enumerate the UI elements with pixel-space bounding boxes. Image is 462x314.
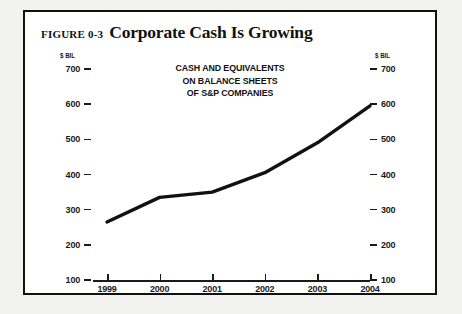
x-tick-label-2004: 2004 bbox=[350, 284, 390, 294]
x-tick-label-2001: 2001 bbox=[192, 284, 232, 294]
x-tick-mark-2001 bbox=[212, 274, 214, 281]
figure-frame: FIGURE 0-3 Corporate Cash Is Growing $ B… bbox=[23, 10, 437, 295]
x-tick-mark-2003 bbox=[317, 274, 319, 281]
x-tick-mark-2000 bbox=[160, 274, 162, 281]
x-tick-mark-2002 bbox=[265, 274, 267, 281]
data-series-line bbox=[25, 12, 435, 293]
x-tick-label-2003: 2003 bbox=[297, 284, 337, 294]
x-tick-label-2002: 2002 bbox=[245, 284, 285, 294]
x-tick-label-1999: 1999 bbox=[87, 284, 127, 294]
x-axis-line bbox=[93, 280, 370, 282]
x-tick-label-2000: 2000 bbox=[140, 284, 180, 294]
x-tick-mark-1999 bbox=[107, 274, 109, 281]
chart-plot-area: $ BIL $ BIL 700600500400300200100 700600… bbox=[25, 12, 435, 293]
x-tick-mark-2004 bbox=[370, 274, 372, 281]
